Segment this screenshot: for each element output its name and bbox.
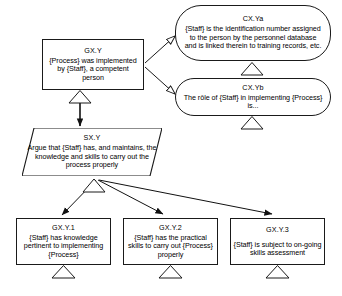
- goal-gxy-text: {Process} was implemented by {Staff}, a …: [43, 57, 143, 82]
- undeveloped-triangle-gxy1: [52, 266, 75, 279]
- undeveloped-triangle-cxya: [241, 63, 263, 76]
- goal-gxy3-text: {Staff} is subject to on-going skills as…: [231, 241, 324, 258]
- context-node-cxya[interactable]: CX.Ya {Staff} is the identification numb…: [175, 5, 331, 61]
- context-node-cxyb[interactable]: CX.Yb The rôle of {Staff} in implementin…: [175, 78, 331, 116]
- undeveloped-triangle-gxy3: [266, 266, 289, 279]
- goal-node-gxy1[interactable]: GX.Y.1 {Staff} has knowledge pertinent t…: [16, 218, 111, 265]
- goal-gxy-id: GX.Y: [84, 47, 102, 55]
- undeveloped-triangle-gxy2: [159, 266, 182, 279]
- undeveloped-triangle-cxyb: [241, 117, 263, 130]
- undeveloped-triangle-gxy: [69, 91, 91, 104]
- edge-sxy-to-gxy2: [98, 180, 163, 214]
- context-cxyb-id: CX.Yb: [242, 84, 263, 92]
- context-cxya-text: {Staff} is the identification number ass…: [176, 25, 330, 50]
- edge-gxy-to-cxya: [145, 36, 175, 63]
- goal-gxy1-text: {Staff} has knowledge pertinent to imple…: [17, 234, 110, 259]
- context-cxyb-text: The rôle of {Staff} in implementing {Pro…: [176, 94, 330, 111]
- diagram-canvas: GX.Y {Process} was implemented by {Staff…: [0, 0, 342, 296]
- goal-gxy2-text: {Staff} has the practical skills to carr…: [124, 234, 217, 259]
- context-cxya-id: CX.Ya: [243, 15, 264, 23]
- goal-node-gxy2[interactable]: GX.Y.2 {Staff} has the practical skills …: [123, 218, 218, 265]
- edge-gxy-to-cxyb: [145, 67, 175, 94]
- goal-gxy3-id: GX.Y.3: [266, 226, 289, 234]
- goal-node-gxy3[interactable]: GX.Y.3 {Staff} is subject to on-going sk…: [230, 218, 325, 265]
- strategy-sxy-id: SX.Y: [84, 134, 101, 142]
- strategy-node-sxy[interactable]: SX.Y Argue that {Staff} has, and maintai…: [22, 128, 162, 176]
- goal-node-gxy[interactable]: GX.Y {Process} was implemented by {Staff…: [42, 39, 144, 90]
- goal-gxy1-id: GX.Y.1: [52, 224, 75, 232]
- strategy-sxy-text: Argue that {Staff} has, and maintains, t…: [22, 144, 162, 169]
- goal-gxy2-id: GX.Y.2: [159, 224, 182, 232]
- edge-sxy-to-gxy3: [99, 180, 272, 214]
